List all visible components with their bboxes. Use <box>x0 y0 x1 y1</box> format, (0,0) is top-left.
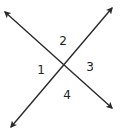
lines-canvas <box>0 0 121 137</box>
intersecting-lines-diagram: 1 2 3 4 <box>0 0 121 137</box>
line-b <box>11 8 112 127</box>
angle-label-3: 3 <box>86 61 94 73</box>
angle-label-1: 1 <box>37 64 45 76</box>
angle-label-2: 2 <box>59 35 67 47</box>
angle-label-4: 4 <box>63 89 71 101</box>
